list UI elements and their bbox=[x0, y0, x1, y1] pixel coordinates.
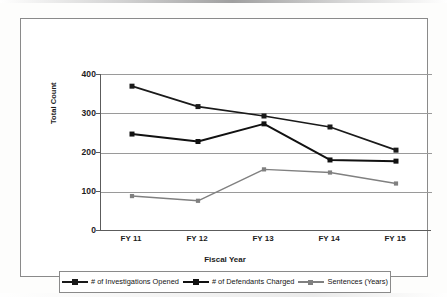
data-point-marker bbox=[394, 148, 399, 153]
legend-marker-icon-investigations bbox=[62, 278, 88, 286]
x-tick-label-fy11: FY 11 bbox=[108, 235, 154, 243]
scan-artifact-bottom bbox=[0, 293, 447, 297]
data-point-marker bbox=[262, 114, 267, 119]
series-line bbox=[132, 124, 396, 161]
x-tick-label-fy12: FY 12 bbox=[174, 235, 220, 243]
legend-label-investigations: # of Investigations Opened bbox=[91, 278, 179, 285]
legend-label-sentences: Sentences (Years) bbox=[327, 278, 388, 285]
data-point-marker bbox=[328, 170, 332, 174]
x-axis-title: Fiscal Year bbox=[21, 255, 429, 264]
plot-area bbox=[100, 74, 431, 231]
data-point-marker bbox=[328, 124, 333, 129]
data-point-marker bbox=[262, 167, 266, 171]
chart-container: Total Count 400 300 200 100 0 FY 11 FY 1… bbox=[20, 18, 428, 277]
legend-marker-icon-sentences bbox=[298, 278, 324, 286]
series-line bbox=[132, 169, 396, 200]
legend-marker-icon-defendants bbox=[183, 278, 209, 286]
chart-legend: # of Investigations Opened # of Defendan… bbox=[59, 271, 391, 293]
y-tick-label-200: 200 bbox=[74, 148, 96, 157]
data-point-marker bbox=[328, 157, 333, 162]
data-point-marker bbox=[196, 139, 201, 144]
data-point-marker bbox=[196, 199, 200, 203]
series-layer bbox=[101, 74, 432, 231]
data-point-marker bbox=[394, 181, 398, 185]
legend-item-sentences: Sentences (Years) bbox=[298, 278, 388, 286]
y-tick-label-300: 300 bbox=[74, 109, 96, 118]
x-tick-label-fy15: FY 15 bbox=[372, 235, 418, 243]
y-tick-label-100: 100 bbox=[74, 187, 96, 196]
y-tick-label-400: 400 bbox=[74, 70, 96, 79]
legend-label-defendants: # of Defendants Charged bbox=[212, 278, 295, 285]
legend-item-defendants: # of Defendants Charged bbox=[183, 278, 295, 286]
data-point-marker bbox=[196, 104, 201, 109]
scan-artifact-top bbox=[0, 0, 447, 3]
data-point-marker bbox=[262, 121, 267, 126]
data-point-marker bbox=[130, 132, 135, 137]
x-tick-label-fy13: FY 13 bbox=[240, 235, 286, 243]
data-point-marker bbox=[130, 84, 135, 89]
legend-item-investigations: # of Investigations Opened bbox=[62, 278, 179, 286]
y-tick-label-0: 0 bbox=[74, 226, 96, 235]
scanned-page: Total Count 400 300 200 100 0 FY 11 FY 1… bbox=[0, 0, 447, 297]
data-point-marker bbox=[394, 159, 399, 164]
x-tick-label-fy14: FY 14 bbox=[306, 235, 352, 243]
y-axis-title: Total Count bbox=[49, 82, 58, 124]
data-point-marker bbox=[130, 194, 134, 198]
